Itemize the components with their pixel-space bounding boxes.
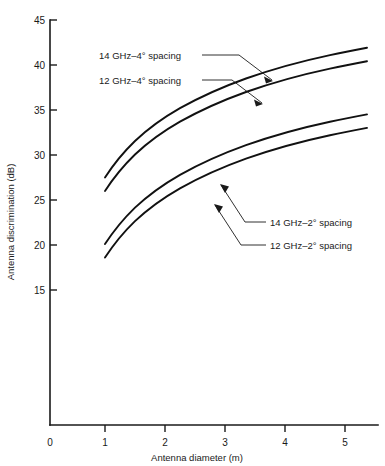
chart-figure: 45 40 35 30 25 20 15 0 1 2 3 4 5 Antenna… <box>0 0 385 466</box>
annotation-label-12ghz-2deg: 12 GHz–2° spacing <box>270 240 352 251</box>
y-axis-title: Antenna discrimination (dB) <box>5 164 16 281</box>
y-tick-label-30: 30 <box>34 150 46 161</box>
y-tick-label-45: 45 <box>34 15 46 26</box>
x-tick-label-1: 1 <box>102 437 108 448</box>
y-tick-label-35: 35 <box>34 105 46 116</box>
x-tick-label-4: 4 <box>282 437 288 448</box>
annotation-label-14ghz-2deg: 14 GHz–2° spacing <box>270 217 352 228</box>
x-axis-title: Antenna diameter (m) <box>151 452 243 463</box>
x-tick-label-2: 2 <box>162 437 168 448</box>
antenna-discrimination-chart: 45 40 35 30 25 20 15 0 1 2 3 4 5 Antenna… <box>0 0 385 466</box>
y-tick-label-25: 25 <box>34 195 46 206</box>
y-tick-label-40: 40 <box>34 60 46 71</box>
x-tick-label-3: 3 <box>222 437 228 448</box>
annotation-label-14ghz-4deg: 14 GHz–4° spacing <box>99 50 181 61</box>
y-tick-label-20: 20 <box>34 240 46 251</box>
x-tick-label-0: 0 <box>47 437 53 448</box>
annotation-label-12ghz-4deg: 12 GHz–4° spacing <box>99 75 181 86</box>
y-tick-label-15: 15 <box>34 285 46 296</box>
x-tick-label-5: 5 <box>342 437 348 448</box>
